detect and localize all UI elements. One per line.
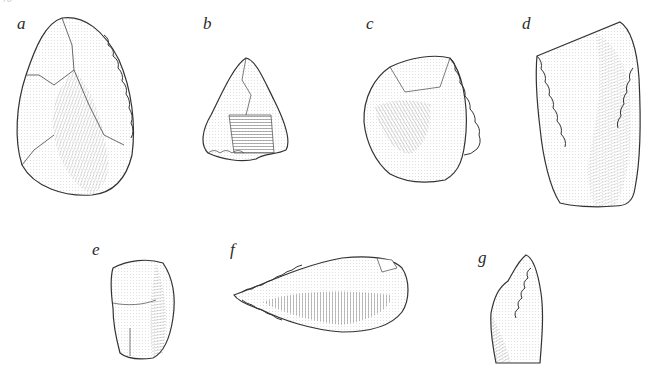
- label-e: e: [92, 240, 100, 260]
- label-d: d: [522, 14, 531, 34]
- label-b: b: [203, 14, 212, 34]
- artifact-e: [108, 258, 178, 363]
- artifact-f: [232, 250, 412, 335]
- artifact-c: [360, 52, 470, 187]
- page-number: 70: [2, 0, 12, 4]
- artifact-b: [196, 55, 296, 165]
- artifact-g: [486, 253, 546, 368]
- artifact-a: [14, 15, 139, 200]
- artifact-d: [535, 18, 645, 208]
- label-c: c: [366, 14, 374, 34]
